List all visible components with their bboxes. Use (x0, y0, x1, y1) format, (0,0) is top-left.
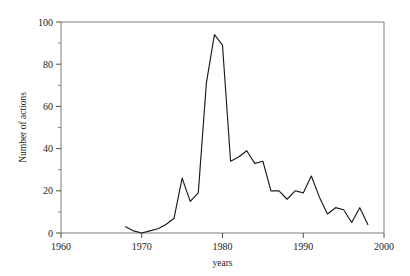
xtick-label: 1970 (132, 241, 152, 252)
ytick-label: 0 (48, 228, 53, 239)
chart-background (0, 0, 410, 276)
ytick-label: 20 (43, 185, 53, 196)
chart-figure: 02040608010019601970198019902000 yearsNu… (0, 0, 410, 276)
ytick-label: 40 (43, 143, 53, 154)
line-chart-plot: 02040608010019601970198019902000 yearsNu… (0, 0, 410, 276)
x-axis-title: years (212, 258, 232, 268)
xtick-label: 1980 (213, 241, 233, 252)
xtick-label: 1990 (293, 241, 313, 252)
y-axis-title: Number of actions (18, 92, 28, 163)
ytick-label: 100 (38, 17, 53, 28)
xtick-label: 1960 (51, 241, 71, 252)
ytick-label: 60 (43, 101, 53, 112)
xtick-label: 2000 (374, 241, 394, 252)
ytick-label: 80 (43, 59, 53, 70)
